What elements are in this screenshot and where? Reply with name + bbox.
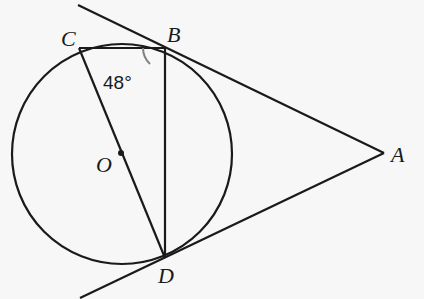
label-D: D: [157, 263, 174, 288]
center-point-O: [118, 150, 124, 156]
angle-label: 48°: [103, 72, 132, 93]
diagram-svg: C B O D A 48°: [0, 0, 424, 299]
angle-arc-B: [143, 48, 150, 64]
label-O: O: [96, 152, 112, 177]
label-A: A: [389, 142, 405, 167]
label-C: C: [61, 26, 76, 51]
label-B: B: [167, 22, 180, 47]
tangent-line-AD: [80, 153, 384, 298]
geometry-diagram: C B O D A 48°: [0, 0, 424, 299]
